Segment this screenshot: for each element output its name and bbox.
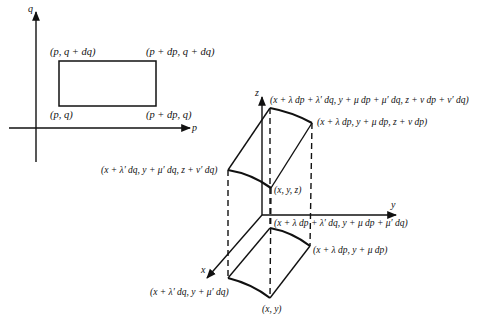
p-axis-label: p: [191, 122, 197, 133]
projection-lines: [228, 108, 312, 298]
y-axis-label: y: [390, 199, 396, 210]
proj-base-corner-label: (x, y): [262, 304, 282, 315]
corner-label-pdp-qdq: (p + dp, q + dq): [146, 46, 215, 58]
proj-left-corner-label: (x + λ′ dq, y + μ′ dq): [150, 287, 229, 298]
top-base-corner-label: (x, y, z): [274, 185, 301, 196]
projected-surface: [228, 228, 310, 298]
diagram-canvas: q p (p, q + dq) (p + dp, q + dq) (p, q) …: [0, 0, 485, 323]
top-far-corner-label: (x + λ dp + λ′ dq, y + μ dp + μ′ dq, z +…: [270, 95, 469, 106]
corner-label-p-qdq: (p, q + dq): [50, 46, 96, 58]
pq-rectangle: [59, 61, 156, 106]
corner-label-pdp-q: (p + dp, q): [146, 109, 192, 121]
pq-plane: q p (p, q + dq) (p + dp, q + dq) (p, q) …: [9, 3, 215, 162]
z-axis-label: z: [254, 87, 259, 98]
top-left-corner-label: (x + λ′ dq, y + μ′ dq, z + ν′ dq): [101, 165, 217, 176]
proj-right-corner-label: (x + λ dp, y + μ dp): [313, 245, 387, 256]
x-axis-label: x: [200, 264, 206, 275]
proj-far-corner-label: (x + λ dp + λ′ dq, y + μ dp + μ′ dq): [274, 218, 408, 229]
xyz-space: z y x (x + λ dp + λ′ dq, y + μ dp + μ′ d…: [101, 87, 469, 315]
corner-label-p-q: (p, q): [50, 109, 73, 121]
q-axis-label: q: [28, 3, 33, 14]
top-right-corner-label: (x + λ dp, y + μ dp, z + ν dp): [317, 117, 427, 128]
